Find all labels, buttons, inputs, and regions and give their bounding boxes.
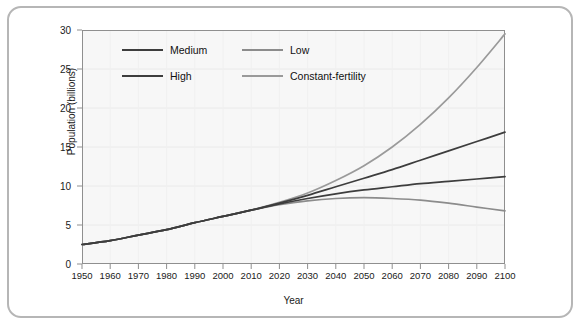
y-tick-label: 25 xyxy=(41,64,71,75)
x-tick-label: 1970 xyxy=(128,270,149,281)
screenshot-root: Population (billions) Year 051015202530 … xyxy=(0,0,584,328)
x-tick-label: 2050 xyxy=(353,270,374,281)
x-tick-label: 1990 xyxy=(184,270,205,281)
legend-item: High xyxy=(122,70,192,82)
y-tick-label: 0 xyxy=(41,259,71,270)
legend-line-swatch xyxy=(122,75,163,77)
chart-legend: MediumLowHighConstant-fertility xyxy=(122,44,362,88)
x-tick-label: 1950 xyxy=(71,270,92,281)
x-tick-label: 2000 xyxy=(212,270,233,281)
y-tick-label: 30 xyxy=(41,25,71,36)
series-line-high xyxy=(82,132,505,244)
x-tick-label: 1960 xyxy=(100,270,121,281)
x-tick-label: 2020 xyxy=(269,270,290,281)
legend-label: High xyxy=(170,70,192,82)
y-tick-label: 10 xyxy=(41,181,71,192)
legend-item: Constant-fertility xyxy=(242,70,366,82)
y-tick-label: 5 xyxy=(41,220,71,231)
legend-line-swatch xyxy=(242,49,283,51)
x-tick-label: 2030 xyxy=(297,270,318,281)
x-tick-label: 2060 xyxy=(382,270,403,281)
series-line-low xyxy=(82,198,505,245)
legend-item: Low xyxy=(242,44,309,56)
legend-item: Medium xyxy=(122,44,207,56)
legend-label: Low xyxy=(290,44,309,56)
legend-label: Constant-fertility xyxy=(290,70,366,82)
x-axis-label: Year xyxy=(82,295,505,306)
x-tick-label: 2070 xyxy=(410,270,431,281)
legend-line-swatch xyxy=(122,49,163,51)
y-tick-label: 15 xyxy=(41,142,71,153)
legend-line-swatch xyxy=(242,75,283,77)
y-tick-label: 20 xyxy=(41,103,71,114)
legend-label: Medium xyxy=(170,44,207,56)
x-tick-label: 1980 xyxy=(156,270,177,281)
x-tick-label: 2090 xyxy=(466,270,487,281)
x-tick-label: 2100 xyxy=(494,270,515,281)
x-tick-label: 2040 xyxy=(325,270,346,281)
x-tick-label: 2010 xyxy=(241,270,262,281)
x-tick-label: 2080 xyxy=(438,270,459,281)
